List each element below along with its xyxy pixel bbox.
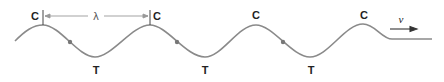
crest-label-3: C bbox=[252, 9, 260, 21]
trough-label-3: T bbox=[308, 64, 315, 76]
crest-label-1: C bbox=[31, 10, 39, 22]
particle-dot-2 bbox=[175, 40, 179, 44]
particle-dot-1 bbox=[68, 40, 72, 44]
crest-label-4: C bbox=[360, 9, 368, 21]
particle-dot-3 bbox=[281, 40, 285, 44]
velocity-symbol: v bbox=[399, 13, 404, 25]
velocity-arrow bbox=[390, 27, 417, 32]
wavelength-symbol: λ bbox=[93, 11, 99, 22]
trough-label-2: T bbox=[202, 64, 209, 76]
crest-label-2: C bbox=[153, 10, 161, 22]
wave-diagram: λ C C C C T T T v bbox=[0, 0, 444, 82]
trough-label-1: T bbox=[93, 64, 100, 76]
wave-curve bbox=[15, 24, 432, 57]
